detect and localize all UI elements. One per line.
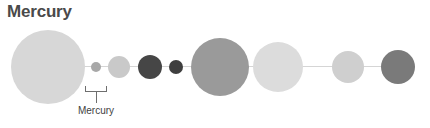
planet-venus [108, 56, 130, 78]
planet-uranus [332, 51, 364, 83]
planet-jupiter [191, 38, 249, 96]
mercury-callout-label: Mercury [71, 105, 121, 116]
planet-earth [138, 55, 162, 79]
planet-mars [169, 60, 183, 74]
solar-system-diagram: Mercury Mercury [0, 0, 430, 128]
callout-stem [96, 92, 97, 103]
planet-neptune [381, 50, 415, 84]
page-title: Mercury [7, 2, 72, 22]
planet-sun [11, 30, 85, 104]
planet-saturn [253, 42, 303, 92]
planet-mercury [91, 62, 101, 72]
mercury-callout-bracket [85, 86, 107, 98]
